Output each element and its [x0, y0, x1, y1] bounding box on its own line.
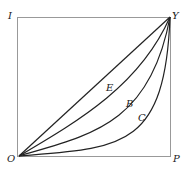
label-y: Y [172, 10, 180, 21]
label-b: B [125, 98, 133, 109]
lorenz-diagram: I Y O P E B C [0, 0, 187, 175]
label-i: I [7, 10, 13, 21]
label-c: C [138, 112, 146, 123]
label-o: O [7, 153, 15, 164]
label-e: E [105, 82, 114, 93]
equality-diagonal [19, 17, 170, 156]
label-p: P [172, 153, 180, 164]
